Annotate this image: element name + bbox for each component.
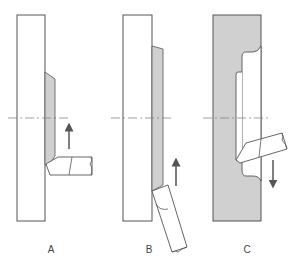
cutting-tool-a xyxy=(46,157,92,175)
cutting-tool-b xyxy=(152,185,187,252)
panel-c xyxy=(203,15,287,221)
panel-label-c: C xyxy=(237,244,257,255)
panel-label-b: B xyxy=(139,244,159,255)
panel-a xyxy=(8,15,92,221)
material-layer-b xyxy=(152,46,163,191)
panel-b xyxy=(111,15,187,252)
relief-slot-c xyxy=(236,72,242,160)
diagram-canvas xyxy=(0,0,298,264)
material-layer-a xyxy=(45,72,55,165)
panel-label-a: A xyxy=(41,244,61,255)
